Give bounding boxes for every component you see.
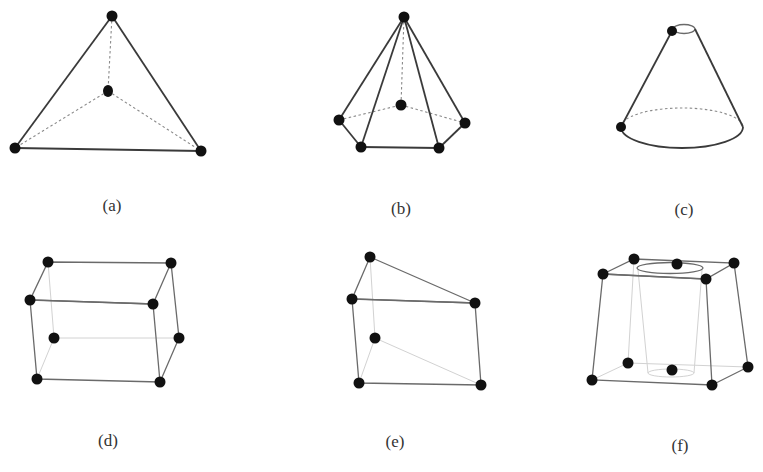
hidden-edge (359, 338, 375, 383)
panel-e-wedge: (e) (347, 252, 487, 452)
node-dot (399, 12, 410, 23)
edge (361, 17, 404, 147)
edge (15, 16, 112, 148)
base-arc (621, 127, 743, 148)
panel-label-a: (a) (103, 196, 122, 215)
hidden-edge (401, 17, 404, 105)
hidden-edge (628, 363, 748, 367)
node-dot (672, 259, 683, 270)
edge (621, 31, 672, 127)
node-dot (365, 252, 376, 263)
node-dot (460, 118, 471, 129)
panel-a-tetrahedron: (a) (10, 11, 207, 216)
panel-c-cone: (c) (616, 25, 743, 220)
panel-label-c: (c) (675, 200, 694, 219)
edge (15, 148, 201, 151)
node-dot (629, 254, 640, 265)
hole-top-ellipse (637, 263, 703, 274)
panel-d-hexahedron: (d) (25, 257, 185, 451)
node-dot (729, 258, 740, 269)
panel-label-b: (b) (391, 199, 411, 218)
node-dot (103, 85, 113, 97)
node-dot (667, 26, 677, 36)
node-dot (707, 380, 718, 391)
edge (404, 17, 439, 148)
hidden-edge (108, 91, 201, 151)
node-dot (743, 362, 754, 373)
hidden-edge (108, 16, 112, 91)
node-dot (155, 377, 166, 388)
node-dot (166, 258, 177, 269)
panel-f-hollow-hexahedron: (f) (587, 254, 754, 456)
node-dot (174, 333, 185, 344)
hidden-edge (15, 91, 108, 148)
node-dot (25, 295, 36, 306)
node-dot (148, 299, 159, 310)
node-dot (10, 143, 21, 154)
node-dot (43, 257, 54, 268)
element-shapes-figure: (a) (b) (c) (0, 0, 763, 472)
node-dot (356, 142, 367, 153)
node-dot (354, 378, 365, 389)
panel-label-f: (f) (672, 436, 689, 455)
node-dot (598, 269, 609, 280)
node-dot (49, 333, 60, 344)
edge (361, 147, 439, 148)
node-dot (476, 380, 487, 391)
edge (404, 17, 465, 123)
hidden-hole-edge (638, 270, 648, 373)
node-dot (334, 115, 345, 126)
node-dot (587, 375, 598, 386)
node-dot (616, 122, 626, 132)
node-dot (370, 333, 381, 344)
hidden-hole-edge (694, 270, 702, 373)
node-dot (667, 365, 678, 376)
hidden-edge (592, 363, 628, 380)
panel-b-pentagonal-pyramid: (b) (334, 12, 471, 219)
node-dot (623, 358, 634, 369)
node-dot (196, 146, 207, 157)
hidden-edge (370, 257, 375, 338)
node-dot (701, 274, 712, 285)
node-dot (470, 298, 481, 309)
node-dot (434, 143, 445, 154)
hidden-base-arc (621, 108, 743, 127)
hidden-edge (37, 338, 54, 379)
node-dot (347, 294, 358, 305)
node-dot (107, 11, 118, 22)
node-dot (396, 100, 407, 111)
hidden-edge (375, 338, 481, 385)
node-dot (32, 374, 43, 385)
hidden-edge (628, 259, 634, 363)
edge (339, 17, 404, 120)
panel-label-d: (d) (98, 431, 118, 450)
edge (695, 29, 743, 127)
edge (112, 16, 201, 151)
panel-label-e: (e) (386, 432, 405, 451)
